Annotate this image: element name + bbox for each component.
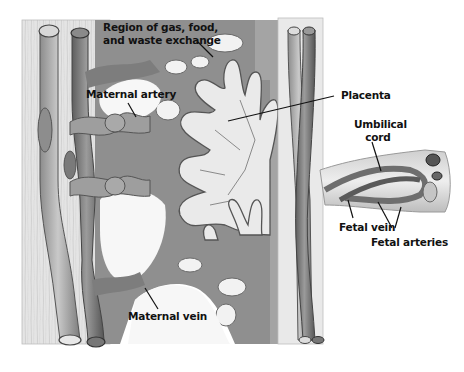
label-umbilical-cord-line1: Umbilical [354, 118, 402, 131]
label-maternal-vein: Maternal vein [128, 310, 207, 323]
label-region-exchange-line2: and waste exchange [103, 34, 221, 47]
label-fetal-vein: Fetal vein [339, 221, 395, 234]
fetal-vessels [278, 18, 324, 344]
label-umbilical-cord-line2: cord [354, 131, 402, 144]
label-region-exchange: Region of gas, food, and waste exchange [103, 21, 221, 47]
umbilical-cord [320, 150, 450, 212]
label-umbilical-cord: Umbilical cord [354, 118, 402, 144]
label-maternal-artery: Maternal artery [86, 88, 176, 101]
label-placenta: Placenta [341, 89, 391, 102]
placenta-diagram [0, 0, 464, 372]
label-region-exchange-line1: Region of gas, food, [103, 21, 221, 34]
label-fetal-arteries: Fetal arteries [371, 236, 448, 249]
